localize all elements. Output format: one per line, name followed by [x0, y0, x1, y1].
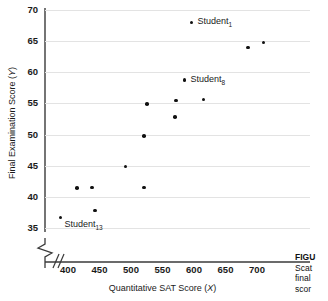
x-tick-label: 550	[148, 265, 178, 275]
y-tick-label: 55	[16, 98, 38, 108]
y-tick-label: 40	[16, 192, 38, 202]
gridline-y	[45, 72, 310, 73]
x-axis-title-suffix: )	[213, 283, 216, 293]
figure-caption-line-3: final	[295, 273, 328, 284]
x-tick-label: 450	[85, 265, 115, 275]
x-axis-title: Quantitative SAT Score (X)	[55, 283, 270, 293]
plot-frame	[0, 0, 328, 301]
y-tick-label: 65	[16, 36, 38, 46]
data-point	[173, 115, 177, 119]
figure-caption-line-2: Scat	[295, 263, 328, 274]
y-tick-label: 60	[16, 67, 38, 77]
y-axis-title-suffix: )	[7, 67, 17, 70]
x-tick-label: 700	[242, 265, 272, 275]
figure-caption-title: FIGU	[295, 252, 328, 263]
x-tick-label: 400	[53, 265, 83, 275]
y-tick-label: 70	[16, 5, 38, 15]
data-point	[142, 134, 146, 138]
data-point	[183, 78, 187, 82]
data-point	[246, 46, 250, 50]
y-tick-label: 45	[16, 161, 38, 171]
y-tick-label: 50	[16, 130, 38, 140]
x-tick-label: 500	[116, 265, 146, 275]
data-point	[174, 99, 178, 103]
figure-caption: FIGU Scat final scor	[295, 252, 328, 294]
data-point	[145, 102, 149, 106]
x-tick-label: 650	[211, 265, 241, 275]
data-point-label: Student13	[64, 219, 102, 233]
data-point	[75, 186, 79, 190]
gridline-y	[45, 10, 310, 11]
figure-caption-line-4: scor	[295, 284, 328, 295]
gridline-y	[45, 166, 310, 167]
gridline-y	[45, 41, 310, 42]
y-axis-title-prefix: Final Examination Score (	[7, 76, 17, 179]
x-tick-label: 600	[179, 265, 209, 275]
gridline-y	[45, 103, 310, 104]
data-point	[90, 186, 94, 190]
scatter-plot-figure: 7065605550454035 400450500550600650700 S…	[0, 0, 328, 301]
y-axis-title: Final Examination Score (Y)	[7, 43, 17, 203]
y-axis-title-variable: Y	[7, 70, 17, 76]
data-point-label: Student8	[191, 74, 226, 88]
gridline-y	[45, 197, 310, 198]
data-point-label: Student1	[197, 16, 232, 30]
gridline-y	[45, 135, 310, 136]
y-tick-label: 35	[16, 223, 38, 233]
x-axis-title-prefix: Quantitative SAT Score (	[109, 283, 208, 293]
y-axis-break-icon	[38, 238, 52, 268]
